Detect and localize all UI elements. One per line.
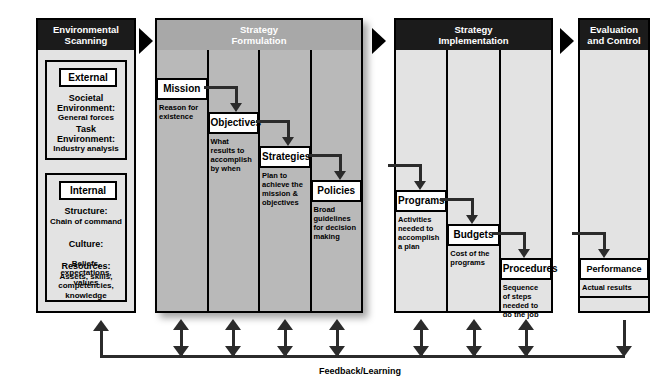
step-desc-performance: Actual results <box>579 280 649 298</box>
step-column-performance: Performance Actual results <box>580 50 648 311</box>
step-desc-strategies: Plan to achieve the mission & objectives <box>259 168 311 209</box>
panel-strategy-implementation: Strategy Implementation Programs Activit… <box>394 18 553 313</box>
internal-structure: Structure: Chain of command <box>47 207 125 226</box>
step-title-strategies: Strategies <box>259 146 311 168</box>
arrow-implementation-to-evaluation <box>560 28 574 54</box>
step-column-procedures: Procedures Sequence of steps needed to d… <box>501 50 551 311</box>
group-external: External Societal Environment: General f… <box>45 60 127 160</box>
step-title-procedures: Procedures <box>500 258 552 280</box>
connector-strategies-to-policies <box>308 154 342 180</box>
connector-programs-to-budgets <box>440 198 474 224</box>
panel-evaluation-and-control: Evaluation and Control Performance Actua… <box>578 18 650 313</box>
internal-label: Internal <box>59 181 117 200</box>
step-title-mission: Mission <box>156 78 208 100</box>
step-title-policies: Policies <box>311 180 363 202</box>
feedback-arrow-up-objectives <box>225 319 241 330</box>
external-label: External <box>59 68 117 87</box>
connector-objectives-to-strategies <box>256 120 290 146</box>
connector-budgets-to-procedures <box>492 232 526 258</box>
feedback-stem-scanning <box>100 330 103 357</box>
connector-mission-to-objectives <box>204 86 238 112</box>
arrow-scanning-to-formulation <box>139 28 153 54</box>
panel-strategy-formulation: Strategy Formulation Mission Reason for … <box>155 18 363 313</box>
feedback-arrow-down-procedures <box>518 346 534 357</box>
feedback-arrow-up-budgets <box>466 319 482 330</box>
feedback-arrow-down-evaluation <box>616 346 632 357</box>
feedback-arrow-down-objectives <box>225 346 241 357</box>
feedback-arrow-up-mission <box>173 319 189 330</box>
group-internal: Internal Structure: Chain of command Cul… <box>45 173 127 302</box>
internal-resources: Resources: Assets, skills, competencies,… <box>47 262 125 300</box>
step-title-performance: Performance <box>579 258 649 280</box>
step-column-strategies: Strategies Plan to achieve the mission &… <box>260 50 312 311</box>
external-societal: Societal Environment: General forces <box>47 94 125 123</box>
feedback-arrow-down-strategies <box>277 346 293 357</box>
connector-policies-to-programs <box>388 164 422 190</box>
feedback-arrow-down-mission <box>173 346 189 357</box>
external-task: Task Environment: Industry analysis <box>47 125 125 154</box>
step-column-mission: Mission Reason for existence <box>157 50 209 311</box>
panel-environmental-scanning: Environmental Scanning External Societal… <box>36 18 136 313</box>
step-desc-policies: Broad guidelines for decision making <box>311 202 363 243</box>
step-desc-procedures: Sequence of steps needed to do the job <box>500 280 552 321</box>
step-column-policies: Policies Broad guidelines for decision m… <box>312 50 362 311</box>
step-column-budgets: Budgets Cost of the programs <box>448 50 500 311</box>
feedback-arrow-up-policies <box>329 319 345 330</box>
step-desc-objectives: What results to accomplish by when <box>208 134 260 175</box>
feedback-arrow-down-programs <box>413 346 429 357</box>
panel-header-environmental-scanning: Environmental Scanning <box>38 20 134 50</box>
connector-procedures-to-performance <box>572 232 606 258</box>
panel-header-evaluation-and-control: Evaluation and Control <box>580 20 648 50</box>
feedback-arrow-down-budgets <box>466 346 482 357</box>
panel-header-strategy-implementation: Strategy Implementation <box>396 20 551 50</box>
feedback-arrow-up-programs <box>413 319 429 330</box>
panel-header-strategy-formulation: Strategy Formulation <box>157 20 361 50</box>
feedback-arrow-down-policies <box>329 346 345 357</box>
feedback-stem-evaluation <box>623 320 626 348</box>
feedback-arrow-up-scanning <box>93 320 109 331</box>
step-title-objectives: Objectives <box>208 112 260 134</box>
step-desc-mission: Reason for existence <box>156 100 208 123</box>
feedback-label: Feedback/Learning <box>280 366 440 376</box>
arrow-formulation-to-implementation <box>372 28 386 54</box>
feedback-arrow-up-strategies <box>277 319 293 330</box>
strategic-management-diagram: Environmental Scanning External Societal… <box>0 0 661 388</box>
